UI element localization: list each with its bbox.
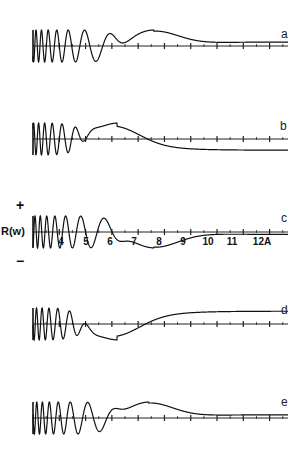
panel-d [33,308,288,340]
x-tick-label-5: 5 [83,237,89,247]
panel-label-c: c [281,212,287,224]
panel-b [33,123,288,155]
x-tick-label-8: 8 [156,237,162,247]
y-minus-sign: − [16,254,24,268]
x-tick-label-10: 10 [202,237,213,247]
panel-label-d: d [281,304,288,316]
panel-label-a: a [281,28,288,40]
x-tick-label-6: 6 [107,237,113,247]
x-tick-label-4: 4 [58,237,64,247]
x-tick-label-11: 11 [227,237,238,247]
y-axis-label: R(w) [1,226,25,237]
panel-label-b: b [280,120,287,132]
panel-label-e: e [281,396,288,408]
x-tick-label-12A: 12A [253,237,271,247]
x-tick-label-9: 9 [180,237,186,247]
panel-a [33,30,288,62]
panel-e [33,402,288,434]
x-tick-label-7: 7 [131,237,137,247]
y-plus-sign: + [16,198,24,212]
waveform-figure [0,0,297,463]
